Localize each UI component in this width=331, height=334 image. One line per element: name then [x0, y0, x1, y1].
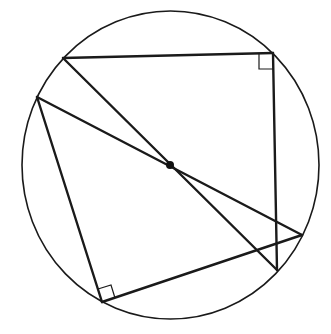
segment-C-D [37, 97, 102, 302]
segment-B-F [273, 53, 277, 270]
segment-D-E [102, 235, 302, 302]
center-point [166, 161, 174, 169]
segment-A-B [63, 53, 273, 58]
right-angle-marker-B [259, 53, 274, 69]
geometry-diagram [0, 0, 331, 334]
chord-segments [37, 53, 302, 302]
